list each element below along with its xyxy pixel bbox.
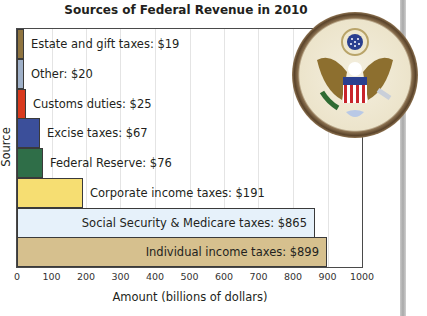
great-seal-image (292, 12, 418, 138)
bar-label: Federal Reserve: $76 (50, 148, 172, 178)
x-tick-label: 800 (284, 271, 302, 282)
eagle-seal-icon (292, 12, 418, 138)
bar-excise-taxes (17, 118, 40, 148)
chart-title: Sources of Federal Revenue in 2010 (36, 3, 336, 17)
bar-federal-reserve (17, 148, 43, 178)
bar-label: Other: $20 (31, 59, 93, 89)
x-tick-label: 1000 (350, 271, 374, 282)
x-tick-label: 600 (215, 271, 233, 282)
bar-other (17, 59, 24, 89)
bar-label: Customs duties: $25 (33, 89, 152, 119)
bar-label: Corporate income taxes: $191 (90, 178, 265, 208)
x-tick-label: 100 (42, 271, 60, 282)
x-tick-label: 300 (111, 271, 129, 282)
bar-label: Social Security & Medicare taxes: $865 (82, 208, 307, 238)
bar-estate-and-gift-taxes (17, 29, 24, 59)
x-tick-label: 400 (146, 271, 164, 282)
x-tick-label: 700 (249, 271, 267, 282)
bar-label: Excise taxes: $67 (47, 118, 148, 148)
x-axis-label: Amount (billions of dollars) (40, 290, 340, 304)
x-tick-label: 900 (318, 271, 336, 282)
y-axis-label: Source (0, 127, 13, 167)
bar-label: Estate and gift taxes: $19 (31, 29, 179, 59)
bar-corporate-income-taxes (17, 178, 83, 208)
bar-label: Individual income taxes: $899 (146, 237, 319, 267)
x-tick-label: 200 (77, 271, 95, 282)
x-tick-label: 0 (14, 271, 20, 282)
x-tick-label: 500 (180, 271, 198, 282)
bar-customs-duties (17, 89, 26, 119)
